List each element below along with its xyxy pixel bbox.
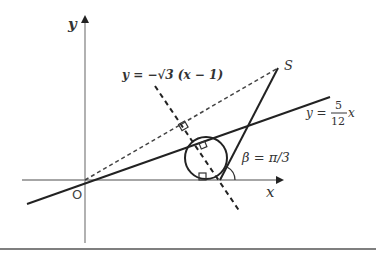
line-5-12-numerator: 5	[335, 99, 342, 112]
right-angle-marker-tangent	[199, 141, 207, 149]
line-5-12-lhs: y =	[305, 106, 327, 120]
geometry-diagram: y x O S y = −√3 (x − 1) y = 5 12 x β = π…	[0, 0, 376, 254]
point-S-label: S	[284, 58, 293, 73]
perpendicular-line-equation: y = −√3 (x − 1)	[121, 68, 223, 82]
line-5-12-var: x	[348, 106, 355, 120]
beta-angle-label: β = π/3	[241, 150, 290, 165]
line-5-12-denominator: 12	[331, 115, 345, 128]
beta-angle-arc	[227, 167, 235, 180]
perpendicular-line	[155, 86, 240, 212]
y-axis-label: y	[67, 15, 78, 33]
x-axis-label: x	[266, 183, 275, 201]
origin-label: O	[72, 187, 82, 202]
